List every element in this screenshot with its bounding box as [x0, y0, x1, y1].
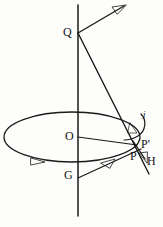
label-g: G [64, 169, 73, 181]
label-o: O [65, 130, 74, 142]
diagram-canvas [0, 0, 163, 227]
o-to-p-radius [78, 137, 137, 145]
label-p: P [130, 150, 137, 162]
label-q: Q [63, 26, 72, 38]
label-p-prime: P' [141, 138, 150, 150]
label-h: H [147, 155, 156, 167]
label-j: j [143, 110, 146, 119]
angular-momentum-shaft [78, 6, 124, 33]
precession-diagram: Q O G P P' H j [0, 0, 163, 227]
q-to-p-line [78, 33, 149, 174]
